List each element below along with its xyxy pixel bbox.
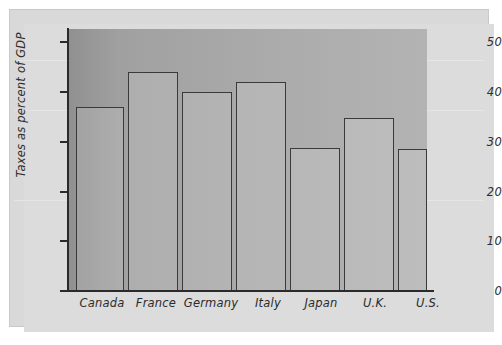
y-tick-30 [60, 141, 68, 143]
y-axis-title: Taxes as percent of GDP [14, 0, 28, 215]
plot-area [68, 29, 427, 291]
bar-canvas[interactable] [76, 107, 124, 291]
y-tick-50 [60, 41, 68, 43]
y-tick-label-50: 50 [450, 35, 502, 49]
bar-france[interactable] [128, 72, 178, 291]
y-axis-line [67, 28, 69, 292]
bar-germany[interactable] [182, 92, 232, 291]
y-tick-40 [60, 91, 68, 93]
bar-japan[interactable] [290, 148, 340, 291]
bar-uk[interactable] [344, 118, 394, 291]
x-tick-label-us: U.S. [392, 296, 464, 310]
y-axis-title-wrap: Taxes as percent of GDP [14, 0, 34, 215]
bar-italy[interactable] [236, 82, 286, 291]
y-tick-label-20: 20 [450, 185, 502, 199]
y-tick-20 [60, 191, 68, 193]
y-tick-label-30: 30 [450, 135, 502, 149]
y-tick-label-40: 40 [450, 85, 502, 99]
y-tick-10 [60, 240, 68, 242]
y-tick-0 [60, 290, 68, 292]
x-axis-line [62, 290, 434, 292]
figure-canvas: Taxes as percent of GDP 0 10 20 30 40 50… [0, 0, 502, 345]
bar-us[interactable] [398, 149, 427, 291]
y-tick-label-10: 10 [450, 234, 502, 248]
